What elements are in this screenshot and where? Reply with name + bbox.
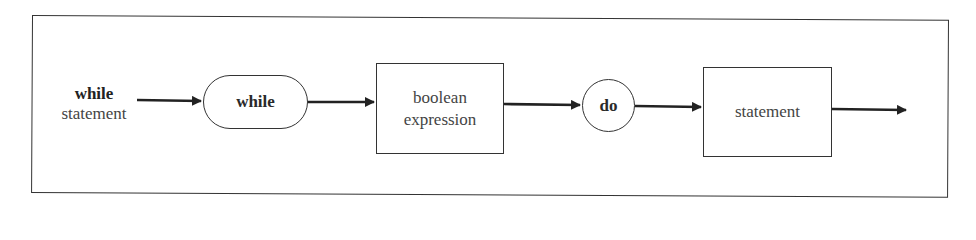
boolean-expression-nonterminal: boolean expression: [376, 63, 504, 154]
statement-nonterminal-label: statement: [735, 102, 800, 122]
while-terminal: while: [203, 75, 308, 129]
entry-label-keyword: while: [50, 84, 138, 104]
arrow-statement-to-exit: [832, 109, 906, 110]
arrow-entry-to-while: [137, 100, 201, 101]
boolean-expression-line-1: boolean: [404, 87, 477, 109]
arrow-do-to-statement: [635, 106, 701, 107]
statement-nonterminal: statement: [703, 67, 832, 157]
while-terminal-label: while: [236, 92, 275, 112]
do-terminal: do: [582, 79, 635, 132]
arrow-boolean-expression-to-do: [504, 104, 580, 105]
boolean-expression-line-2: expression: [404, 109, 477, 131]
do-terminal-label: do: [600, 96, 618, 116]
entry-label-name: statement: [50, 104, 138, 124]
entry-label: while statement: [50, 84, 138, 124]
